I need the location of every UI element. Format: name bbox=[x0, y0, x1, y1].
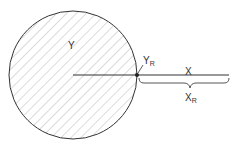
pointer-arrow bbox=[138, 65, 143, 73]
circle-label: Y bbox=[68, 41, 75, 51]
brace bbox=[139, 78, 229, 88]
point-label: YR bbox=[143, 56, 155, 66]
boundary-point bbox=[135, 73, 139, 77]
line-label: X bbox=[185, 67, 192, 77]
diagram-svg bbox=[0, 0, 238, 146]
diagram-canvas: Y YR X XR bbox=[0, 0, 238, 146]
brace-label: XR bbox=[185, 93, 197, 103]
